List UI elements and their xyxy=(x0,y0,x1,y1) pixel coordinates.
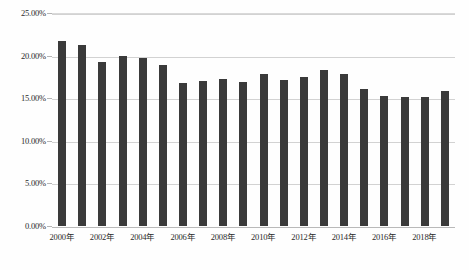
bar[interactable] xyxy=(199,81,207,226)
bar[interactable] xyxy=(78,45,86,226)
bar[interactable] xyxy=(159,65,167,226)
bar[interactable] xyxy=(219,79,227,226)
y-axis: 0.00%5.00%10.00%15.00%20.00%25.00% xyxy=(0,0,52,240)
y-axis-tick-label: 0.00% xyxy=(25,221,46,231)
bar[interactable] xyxy=(139,58,147,226)
x-axis-tick-label: 2006年 xyxy=(170,230,195,242)
bar[interactable] xyxy=(340,74,348,227)
bar[interactable] xyxy=(239,82,247,226)
bar-chart: 0.00%5.00%10.00%15.00%20.00%25.00% 2000年… xyxy=(0,0,469,270)
x-axis-tick-label: 2016年 xyxy=(372,230,397,242)
bar[interactable] xyxy=(98,62,106,226)
x-axis-tick-label: 2018年 xyxy=(412,230,437,242)
bar[interactable] xyxy=(179,83,187,226)
bar[interactable] xyxy=(260,74,268,226)
bar[interactable] xyxy=(300,77,308,226)
bar[interactable] xyxy=(401,97,409,226)
x-axis-tick-label: 2000年 xyxy=(50,230,75,242)
x-axis-tick-label: 2010年 xyxy=(251,230,276,242)
x-axis-tick-label: 2014年 xyxy=(332,230,357,242)
bar[interactable] xyxy=(360,89,368,226)
y-axis-tick-label: 25.00% xyxy=(21,8,46,18)
y-axis-tick-label: 5.00% xyxy=(25,178,46,188)
bar[interactable] xyxy=(441,91,449,226)
x-axis-tick-label: 2012年 xyxy=(291,230,316,242)
y-axis-tick-label: 10.00% xyxy=(21,136,46,146)
bars-layer xyxy=(52,13,455,226)
x-axis: 2000年2002年2004年2006年2008年2010年2012年2014年… xyxy=(52,228,455,258)
bar[interactable] xyxy=(119,56,127,226)
bar[interactable] xyxy=(421,97,429,226)
y-axis-tick-label: 20.00% xyxy=(21,51,46,61)
bar[interactable] xyxy=(380,96,388,226)
y-axis-tick-label: 15.00% xyxy=(21,93,46,103)
bar[interactable] xyxy=(320,70,328,226)
x-axis-tick-label: 2008年 xyxy=(211,230,236,242)
bar[interactable] xyxy=(280,80,288,226)
bar[interactable] xyxy=(58,41,66,226)
x-axis-tick-label: 2002年 xyxy=(90,230,115,242)
x-axis-tick-label: 2004年 xyxy=(130,230,155,242)
